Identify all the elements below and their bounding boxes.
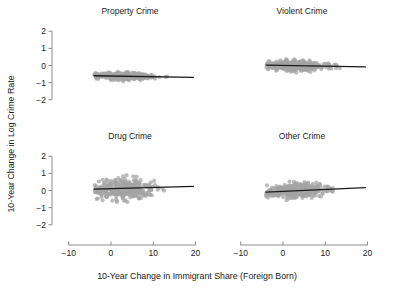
data-point: [111, 192, 115, 196]
data-point: [287, 180, 291, 184]
panel-other-crime: Other Crime−1001020: [233, 131, 372, 258]
data-point: [270, 66, 274, 70]
data-point: [284, 57, 288, 61]
y-tick-label-0-3: −1: [36, 78, 46, 88]
data-point: [148, 193, 152, 197]
x-axis-label: 10-Year Change in Immigrant Share (Forei…: [97, 271, 297, 281]
data-point: [108, 71, 112, 75]
data-point: [110, 198, 114, 202]
data-point: [104, 177, 108, 181]
data-point: [96, 196, 100, 200]
y-tick-label-2-1: 1: [41, 168, 46, 178]
y-tick-label-0-0: 2: [41, 26, 46, 36]
data-point: [294, 71, 298, 75]
x-tick-label-3-0: −10: [233, 248, 248, 258]
data-point: [306, 69, 310, 73]
data-point: [112, 180, 116, 184]
data-point: [133, 189, 137, 193]
data-point: [137, 196, 141, 200]
x-tick-label-3-1: 0: [281, 248, 286, 258]
data-point: [118, 191, 122, 195]
y-tick-label-2-4: −2: [36, 220, 46, 230]
data-point: [106, 192, 110, 196]
data-point: [124, 173, 128, 177]
x-tick-label-3-2: 10: [321, 248, 331, 258]
panel-property-crime: Property Crime210−1−2: [36, 6, 193, 105]
data-point: [99, 195, 103, 199]
data-point: [265, 183, 269, 187]
data-point: [121, 174, 125, 178]
data-point: [302, 180, 306, 184]
data-point: [97, 179, 101, 183]
data-point: [101, 178, 105, 182]
data-point: [97, 191, 101, 195]
panel-violent-crime: Violent Crime: [264, 6, 365, 75]
data-point: [302, 192, 306, 196]
data-point: [113, 77, 117, 81]
data-point: [135, 175, 139, 179]
y-tick-label-0-2: 0: [41, 61, 46, 71]
data-point: [127, 71, 131, 75]
data-point: [103, 181, 107, 185]
y-tick-label-2-3: −1: [36, 203, 46, 213]
data-point: [292, 192, 296, 196]
panel-title-0: Property Crime: [101, 6, 158, 16]
data-point: [149, 180, 153, 184]
data-point: [317, 183, 321, 187]
data-point: [144, 194, 148, 198]
data-point: [308, 193, 312, 197]
panel-title-1: Violent Crime: [277, 6, 328, 16]
y-tick-label-0-1: 1: [41, 43, 46, 53]
data-point: [282, 186, 286, 190]
data-point: [116, 176, 120, 180]
y-tick-label-2-0: 2: [41, 151, 46, 161]
data-point: [321, 192, 325, 196]
x-tick-label-2-0: −10: [61, 248, 76, 258]
y-axis-label: 10-Year Change in Log Crime Rate: [6, 75, 16, 212]
data-point: [270, 185, 274, 189]
y-tick-label-0-4: −2: [36, 95, 46, 105]
x-tick-label-3-3: 20: [363, 248, 373, 258]
panel-title-3: Other Crime: [279, 131, 326, 141]
data-point: [308, 60, 312, 64]
y-tick-label-2-2: 0: [41, 186, 46, 196]
data-point: [293, 60, 297, 64]
figure-panel-grid: Property Crime210−1−2Violent CrimeDrug C…: [0, 0, 394, 288]
data-point: [123, 181, 127, 185]
x-tick-label-2-1: 0: [109, 248, 114, 258]
data-point: [142, 183, 146, 187]
data-point: [297, 185, 301, 189]
data-point: [117, 186, 121, 190]
data-point: [114, 197, 118, 201]
data-point: [279, 65, 283, 69]
data-point: [301, 59, 305, 63]
x-tick-label-2-2: 10: [149, 248, 159, 258]
chart-canvas: Property Crime210−1−2Violent CrimeDrug C…: [0, 0, 394, 288]
data-point: [116, 71, 120, 75]
data-point: [162, 189, 166, 193]
data-point: [285, 195, 289, 199]
data-point: [275, 193, 279, 197]
panel-title-2: Drug Crime: [108, 131, 152, 141]
data-point: [264, 193, 268, 197]
panel-drug-crime: Drug Crime210−1−2−1001020: [36, 131, 200, 258]
x-tick-label-2-3: 20: [191, 248, 201, 258]
data-point: [138, 189, 142, 193]
data-point: [153, 183, 157, 187]
data-point: [288, 191, 292, 195]
data-point: [132, 182, 136, 186]
